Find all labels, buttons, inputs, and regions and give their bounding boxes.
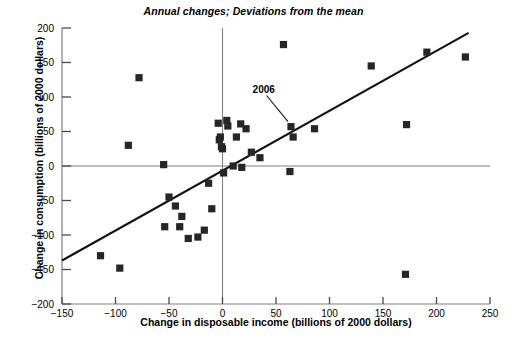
data-point <box>280 41 287 48</box>
axes <box>62 28 490 304</box>
data-point <box>403 121 410 128</box>
data-point <box>286 168 293 175</box>
data-point <box>290 133 297 140</box>
scatter-plot-canvas <box>0 0 507 337</box>
data-point <box>125 142 132 149</box>
data-point <box>97 252 104 259</box>
trend-line <box>62 33 469 261</box>
data-point <box>165 193 172 200</box>
data-point <box>233 133 240 140</box>
data-point <box>160 161 167 168</box>
data-point <box>368 62 375 69</box>
data-point <box>217 133 224 140</box>
data-point <box>135 74 142 81</box>
data-point <box>402 271 409 278</box>
data-point <box>205 180 212 187</box>
chart-figure: Annual changes; Deviations from the mean… <box>0 0 507 337</box>
data-point <box>172 202 179 209</box>
data-point <box>161 223 168 230</box>
data-point <box>256 154 263 161</box>
data-point <box>248 149 255 156</box>
data-point <box>287 123 294 130</box>
data-points <box>97 41 469 278</box>
data-point <box>176 223 183 230</box>
data-point <box>462 53 469 60</box>
data-point <box>242 125 249 132</box>
data-point <box>215 120 222 127</box>
data-point <box>208 205 215 212</box>
data-point <box>201 227 208 234</box>
data-point <box>311 125 318 132</box>
data-point <box>238 164 245 171</box>
data-point <box>185 235 192 242</box>
data-point <box>423 49 430 56</box>
data-point <box>230 162 237 169</box>
data-point <box>194 233 201 240</box>
data-point <box>178 213 185 220</box>
data-point <box>116 265 123 272</box>
annotation-leader-lines <box>267 95 288 121</box>
data-point <box>219 145 226 152</box>
data-point <box>224 122 231 129</box>
data-point <box>220 169 227 176</box>
